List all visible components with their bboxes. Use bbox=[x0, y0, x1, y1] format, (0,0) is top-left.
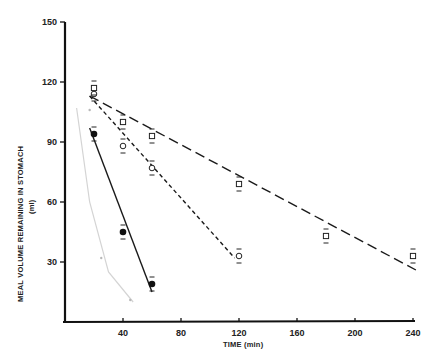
filled-circles-point bbox=[149, 277, 156, 291]
x-tick-label: 80 bbox=[176, 328, 186, 338]
open-squares-point bbox=[149, 129, 154, 143]
open-square-marker bbox=[410, 253, 415, 258]
faint-curve-line bbox=[77, 108, 134, 302]
open-square-marker bbox=[323, 233, 328, 238]
y-tick-label: 150 bbox=[42, 17, 57, 27]
data-markers bbox=[88, 81, 415, 301]
x-tick-label: 160 bbox=[289, 328, 304, 338]
filled-circles-point bbox=[120, 225, 127, 239]
filled-circle-marker bbox=[120, 229, 127, 236]
y-tick-label: 30 bbox=[47, 257, 57, 267]
open-squares-point bbox=[410, 249, 415, 263]
open-squares-fit-line bbox=[90, 96, 416, 270]
open-squares-point bbox=[120, 115, 125, 129]
open-square-marker bbox=[236, 181, 241, 186]
filled-circle-marker bbox=[149, 281, 156, 288]
open-circles-fit-line bbox=[90, 96, 235, 258]
y-tick-label: 60 bbox=[47, 197, 57, 207]
open-square-marker bbox=[120, 119, 125, 124]
open-circles-point bbox=[236, 249, 242, 263]
small-dot-marker bbox=[129, 299, 131, 301]
open-squares-point bbox=[323, 229, 328, 243]
faint-gray-curve-point bbox=[129, 299, 131, 301]
open-square-marker bbox=[91, 85, 96, 90]
x-tick-label: 40 bbox=[118, 328, 128, 338]
gastric-emptying-chart: 4080120160200240306090120150 MEAL VOLUME… bbox=[0, 0, 433, 362]
y-axis-unit: (ml) bbox=[27, 199, 36, 214]
y-axis-title: MEAL VOLUME REMAINING IN STOMACH bbox=[16, 146, 25, 302]
filled-circle-marker bbox=[91, 131, 98, 138]
open-circle-marker bbox=[91, 91, 97, 97]
open-square-marker bbox=[149, 133, 154, 138]
fit-lines bbox=[77, 96, 416, 302]
open-circle-marker bbox=[120, 143, 126, 149]
open-squares-point bbox=[236, 177, 241, 191]
x-axis-title: TIME (min) bbox=[223, 340, 264, 349]
small-dot-marker bbox=[88, 109, 90, 111]
axis-ticks: 4080120160200240306090120150 bbox=[42, 17, 421, 338]
x-tick-label: 240 bbox=[405, 328, 420, 338]
y-tick-label: 90 bbox=[47, 137, 57, 147]
open-circles-point bbox=[149, 161, 155, 175]
x-tick-label: 120 bbox=[231, 328, 246, 338]
x-tick-label: 200 bbox=[347, 328, 362, 338]
axes bbox=[63, 22, 415, 322]
open-circles-point bbox=[120, 139, 126, 153]
small-dot-marker bbox=[100, 257, 102, 259]
open-circle-marker bbox=[236, 253, 242, 259]
faint-gray-curve-point bbox=[88, 109, 90, 111]
faint-gray-curve-point bbox=[100, 257, 102, 259]
open-circle-marker bbox=[149, 165, 155, 171]
y-tick-label: 120 bbox=[42, 77, 57, 87]
